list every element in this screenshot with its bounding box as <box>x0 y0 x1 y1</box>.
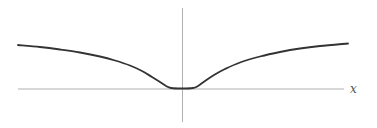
function-graph: x <box>0 0 377 128</box>
x-axis-label: x <box>350 82 357 96</box>
